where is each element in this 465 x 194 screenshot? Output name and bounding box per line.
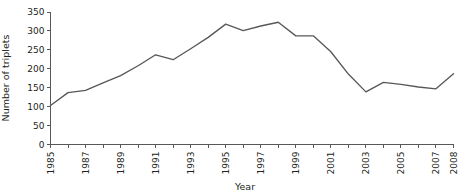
data-series-line (51, 22, 454, 105)
y-tick-label: 200 (27, 64, 44, 74)
y-tick-label: 50 (33, 121, 45, 131)
x-tick-label: 2007 (431, 152, 441, 175)
x-axis-ticks: 1985198719891991199319951997199920012003… (46, 145, 459, 175)
line-chart: 050100150200250300350 Number of triplets… (0, 0, 465, 194)
y-axis-title: Number of triplets (0, 35, 11, 122)
x-tick-label: 1987 (81, 152, 91, 175)
y-tick-label: 0 (39, 140, 45, 150)
y-tick-label: 100 (27, 102, 44, 112)
x-tick-label: 1995 (221, 152, 231, 175)
x-tick-label: 1997 (256, 152, 266, 175)
x-tick-label: 1989 (116, 151, 126, 174)
x-tick-label: 1999 (291, 151, 301, 174)
x-axis-title: Year (234, 181, 255, 192)
plot-area (51, 22, 454, 105)
x-tick-label: 1993 (186, 152, 196, 175)
y-tick-label: 300 (27, 26, 44, 36)
chart-container: 050100150200250300350 Number of triplets… (0, 0, 465, 194)
x-tick-label: 1991 (151, 152, 161, 175)
x-axis: 1985198719891991199319951997199920012003… (46, 145, 459, 193)
x-tick-label: 2003 (361, 152, 371, 175)
x-tick-label: 2005 (396, 152, 406, 175)
x-tick-label: 1985 (46, 152, 56, 175)
x-tick-label: 2008 (449, 151, 459, 174)
y-tick-label: 350 (27, 7, 44, 17)
y-tick-label: 150 (27, 83, 44, 93)
y-tick-label: 250 (27, 45, 44, 55)
x-tick-label: 2001 (326, 152, 336, 175)
y-axis: 050100150200250300350 Number of triplets (0, 7, 51, 150)
y-axis-ticks: 050100150200250300350 (27, 7, 50, 150)
